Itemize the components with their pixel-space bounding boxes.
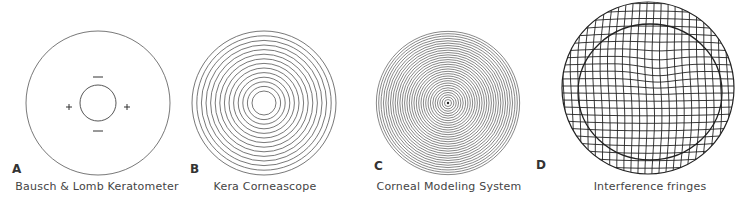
interference-fringe-diagram (530, 0, 740, 202)
panel-caption: Corneal Modeling System (377, 180, 522, 193)
panel-letter: C (374, 159, 383, 173)
panel-d-interference: D Interference fringes (530, 0, 740, 202)
keratometer-mire-diagram (0, 0, 185, 202)
dense-ring-diagram (370, 0, 555, 202)
panel-caption: Interference fringes (594, 180, 707, 193)
panel-letter: A (12, 162, 21, 176)
panel-b-corneascope: B Kera Corneascope (185, 0, 370, 202)
panel-a-keratometer: A Bausch & Lomb Keratometer (0, 0, 185, 202)
panel-caption: Bausch & Lomb Keratometer (15, 180, 178, 193)
panel-letter: B (190, 162, 199, 176)
placido-ring-diagram (185, 0, 370, 202)
panel-caption: Kera Corneascope (214, 180, 317, 193)
panel-letter: D (536, 158, 546, 172)
panel-c-corneal-modeling: C Corneal Modeling System (370, 0, 555, 202)
